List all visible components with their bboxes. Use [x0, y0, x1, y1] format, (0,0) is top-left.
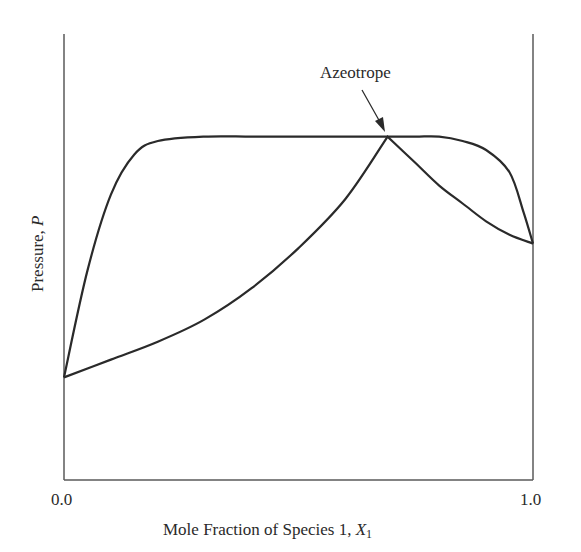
x-tick-1: 1.0	[520, 490, 541, 510]
x-tick-0: 0.0	[51, 490, 72, 510]
y-axis-label-var: P	[28, 216, 47, 226]
x-axis-label-text: Mole Fraction of Species 1,	[163, 520, 356, 539]
dew-point-curve	[64, 136, 533, 377]
bubble-point-curve	[64, 137, 533, 378]
x-axis-label-sub: 1	[366, 527, 372, 541]
plot-frame	[64, 34, 533, 480]
y-axis-label: Pressure, P	[28, 216, 48, 293]
vle-pressure-composition-chart	[0, 0, 581, 552]
x-axis-label-var: X	[356, 520, 366, 539]
x-axis-label: Mole Fraction of Species 1, X1	[163, 520, 372, 542]
azeotrope-annotation: Azeotrope	[320, 63, 391, 83]
azeotrope-arrow	[362, 90, 385, 132]
y-axis-label-text: Pressure,	[28, 226, 47, 292]
arrowhead-icon	[375, 117, 385, 132]
